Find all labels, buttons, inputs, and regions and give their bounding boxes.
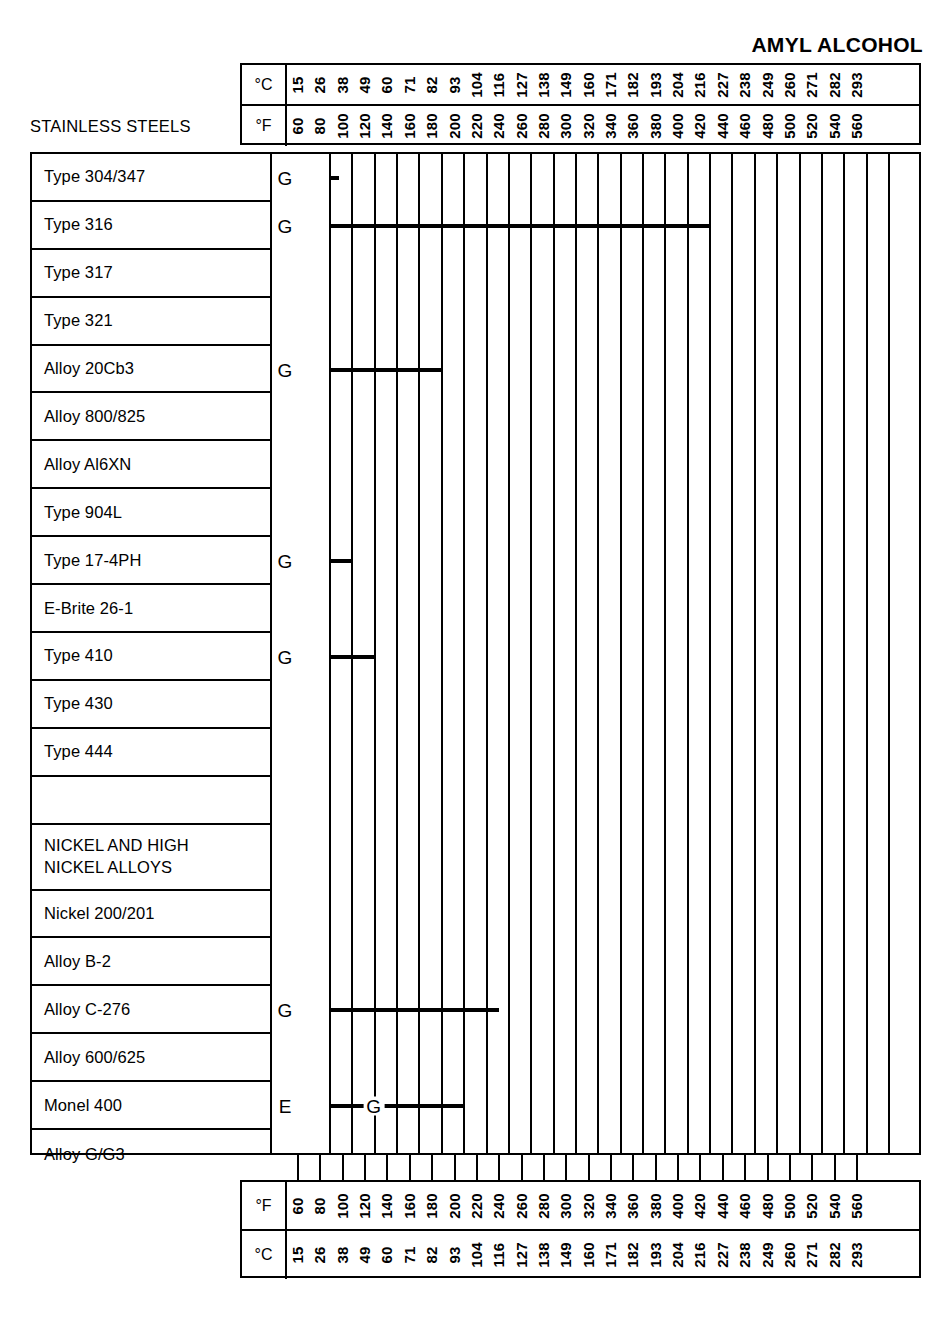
tick-fahrenheit-440: 440 <box>714 1193 729 1219</box>
header-fahrenheit-unit: °F <box>242 106 287 146</box>
tick-celsius-282: 282 <box>826 1242 841 1268</box>
tick-celsius-238: 238 <box>737 1242 752 1268</box>
tick-celsius-271: 271 <box>804 72 819 98</box>
gridline <box>856 1155 858 1181</box>
tick-celsius-71: 71 <box>401 76 416 93</box>
alloy-label: Alloy G/G3 <box>44 1145 125 1164</box>
gridline <box>364 1155 366 1181</box>
tick-fahrenheit-520: 520 <box>804 113 819 139</box>
table-row: Type 444 <box>32 729 270 777</box>
gridline <box>351 154 353 1153</box>
tick-fahrenheit-320: 320 <box>580 1193 595 1219</box>
tick-fahrenheit-420: 420 <box>692 113 707 139</box>
rating-marker: G <box>272 216 298 235</box>
tick-fahrenheit-340: 340 <box>603 113 618 139</box>
footer-celsius-ticks: 1526384960718293104116127138149160171182… <box>287 1231 919 1279</box>
tick-celsius-260: 260 <box>781 72 796 98</box>
footer-fahrenheit-row: °F 6080100120140160180200220240260280300… <box>242 1182 919 1231</box>
tick-fahrenheit-520: 520 <box>804 1193 819 1219</box>
gridline <box>699 1155 701 1181</box>
alloy-label: Type 304/347 <box>44 167 145 186</box>
alloy-label: Type 904L <box>44 503 122 522</box>
header-celsius-unit: °C <box>242 65 287 104</box>
tick-celsius-171: 171 <box>603 72 618 98</box>
footer-celsius-row: °C 1526384960718293104116127138149160171… <box>242 1231 919 1279</box>
tick-fahrenheit-260: 260 <box>513 113 528 139</box>
tick-celsius-26: 26 <box>312 76 327 93</box>
alloy-label: NICKEL AND HIGHNICKEL ALLOYS <box>44 835 189 877</box>
tick-fahrenheit-420: 420 <box>692 1193 707 1219</box>
gridline <box>575 154 577 1153</box>
table-row: Alloy G/G3 <box>32 1130 270 1178</box>
gridline <box>722 1155 724 1181</box>
alloy-label: Monel 400 <box>44 1096 122 1115</box>
alloy-label: Type 430 <box>44 694 113 713</box>
alloy-label: Type 321 <box>44 311 113 330</box>
tick-fahrenheit-120: 120 <box>357 1193 372 1219</box>
tick-celsius-104: 104 <box>468 1242 483 1268</box>
tick-celsius-38: 38 <box>334 1246 349 1263</box>
gridline <box>498 1155 500 1181</box>
gridline <box>597 154 599 1153</box>
tick-fahrenheit-460: 460 <box>737 113 752 139</box>
gridline <box>834 1155 836 1181</box>
gridline <box>744 1155 746 1181</box>
tick-celsius-227: 227 <box>714 1242 729 1268</box>
tick-fahrenheit-380: 380 <box>647 1193 662 1219</box>
tick-fahrenheit-80: 80 <box>312 117 327 134</box>
alloy-label: Alloy 800/825 <box>44 407 145 426</box>
tick-celsius-182: 182 <box>625 1242 640 1268</box>
gridline <box>642 154 644 1153</box>
tick-fahrenheit-400: 400 <box>670 1193 685 1219</box>
tick-celsius-149: 149 <box>558 1242 573 1268</box>
tick-celsius-260: 260 <box>781 1242 796 1268</box>
tick-fahrenheit-200: 200 <box>446 1193 461 1219</box>
gridline <box>396 154 398 1153</box>
header-celsius-ticks: 1526384960718293104116127138149160171182… <box>287 65 919 104</box>
tick-fahrenheit-300: 300 <box>558 113 573 139</box>
tick-fahrenheit-120: 120 <box>357 113 372 139</box>
rating-marker: G <box>272 647 298 666</box>
spacer-row <box>32 777 270 825</box>
rating-marker: E <box>272 1097 298 1116</box>
tick-celsius-216: 216 <box>692 72 707 98</box>
rating-marker-column: GGGGGGE <box>272 154 298 1153</box>
tick-celsius-193: 193 <box>647 72 662 98</box>
tick-celsius-15: 15 <box>290 1246 305 1263</box>
gridline <box>418 154 420 1153</box>
table-row: Type 430 <box>32 681 270 729</box>
gridline <box>799 154 801 1153</box>
rating-bar <box>329 368 441 372</box>
rating-bar <box>329 1008 499 1012</box>
gridline <box>319 1155 321 1181</box>
tick-fahrenheit-200: 200 <box>446 113 461 139</box>
tick-fahrenheit-240: 240 <box>491 113 506 139</box>
tick-celsius-204: 204 <box>670 72 685 98</box>
tick-fahrenheit-220: 220 <box>468 113 483 139</box>
tick-celsius-127: 127 <box>513 72 528 98</box>
table-row: Type 317 <box>32 250 270 298</box>
category-caption: STAINLESS STEELS <box>30 117 191 136</box>
gridline <box>374 154 376 1153</box>
tick-fahrenheit-80: 80 <box>312 1197 327 1214</box>
table-row: Alloy 600/625 <box>32 1034 270 1082</box>
footer-celsius-unit: °C <box>242 1231 287 1279</box>
tick-fahrenheit-140: 140 <box>379 1193 394 1219</box>
rating-bar <box>374 1104 463 1108</box>
alloy-label: Alloy 600/625 <box>44 1048 145 1067</box>
tick-fahrenheit-180: 180 <box>424 113 439 139</box>
tick-fahrenheit-380: 380 <box>647 113 662 139</box>
tick-fahrenheit-540: 540 <box>826 113 841 139</box>
footer-fahrenheit-ticks: 6080100120140160180200220240260280300320… <box>287 1182 919 1229</box>
tick-fahrenheit-500: 500 <box>781 113 796 139</box>
rating-bar <box>329 559 351 563</box>
gridline <box>431 1155 433 1181</box>
rating-marker: G <box>272 360 298 379</box>
tick-celsius-227: 227 <box>714 72 729 98</box>
tick-celsius-282: 282 <box>826 72 841 98</box>
table-row: Alloy C-276 <box>32 986 270 1034</box>
tick-fahrenheit-480: 480 <box>759 1193 774 1219</box>
gridline <box>664 154 666 1153</box>
tick-fahrenheit-560: 560 <box>849 1193 864 1219</box>
table-row: Alloy Al6XN <box>32 441 270 489</box>
